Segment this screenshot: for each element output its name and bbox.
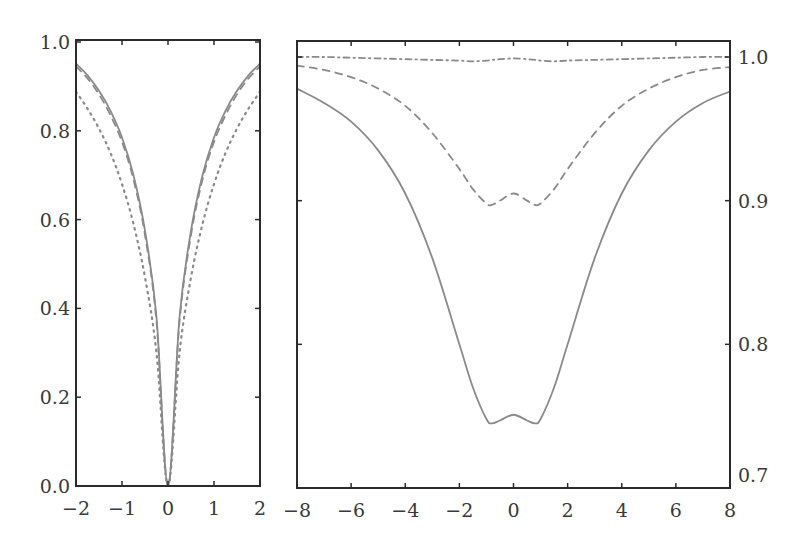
x-tick-label: −2 — [445, 499, 473, 521]
chart-canvas: −2−10120.00.20.40.60.81.0 −8−6−4−2024680… — [0, 0, 797, 548]
y-tick-label: 0.6 — [40, 209, 70, 231]
x-tick-label: −1 — [108, 497, 136, 519]
x-tick-label: 8 — [724, 499, 736, 521]
x-tick-label: −4 — [391, 499, 419, 521]
x-tick-label: 0 — [162, 497, 174, 519]
curve-dashed — [76, 66, 260, 486]
curve-dash-dot — [297, 57, 730, 61]
curve-dotted — [76, 92, 260, 486]
x-tick-label: 4 — [616, 499, 628, 521]
x-tick-label: 2 — [254, 497, 266, 519]
left-panel: −2−10120.00.20.40.60.81.0 — [40, 31, 266, 519]
y-tick-label: 0.0 — [40, 475, 70, 497]
y-tick-label: 0.7 — [738, 464, 768, 486]
axes-frame — [297, 41, 730, 488]
x-tick-label: 6 — [670, 499, 682, 521]
x-tick-label: −6 — [337, 499, 365, 521]
y-tick-label: 0.8 — [738, 333, 768, 355]
x-tick-label: −8 — [283, 499, 311, 521]
y-tick-label: 0.4 — [40, 297, 70, 319]
right-panel: −8−6−4−2024680.70.80.91.0 — [283, 41, 768, 521]
x-tick-label: 2 — [562, 499, 574, 521]
y-tick-label: 0.2 — [40, 386, 70, 408]
y-tick-label: 0.9 — [738, 190, 768, 212]
x-tick-label: −2 — [62, 497, 90, 519]
x-tick-label: 1 — [208, 497, 220, 519]
axes-frame — [76, 40, 260, 486]
y-tick-label: 0.8 — [40, 120, 70, 142]
curve-dashed — [297, 66, 730, 206]
curve-solid — [76, 64, 260, 486]
y-tick-label: 1.0 — [738, 46, 768, 68]
y-tick-label: 1.0 — [40, 31, 70, 53]
x-tick-label: 0 — [507, 499, 519, 521]
curve-solid — [297, 89, 730, 424]
